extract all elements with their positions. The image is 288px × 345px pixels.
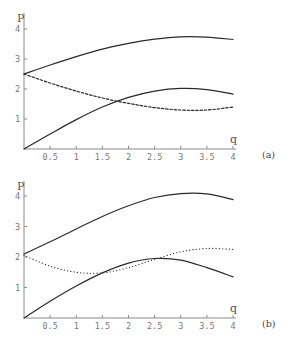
panel-a-x-tick-label: 2.5 <box>147 152 162 162</box>
panel-a-x-tick-label: 3 <box>178 152 183 162</box>
panel-a-x-tick-label: 1 <box>74 152 79 162</box>
panel-b-y-tick-label: 1 <box>15 283 20 293</box>
panel-b-x-tick-label: 3.5 <box>199 321 214 331</box>
panel-b-label: (b) <box>262 318 276 329</box>
panel-b-y-tick-label: 2 <box>15 252 20 262</box>
panel-b-y-tick-label: 3 <box>15 222 20 232</box>
panel-b-curve-dotted <box>24 248 233 273</box>
panel-b: 0.511.522.533.541234 P q (b) <box>15 180 276 331</box>
panel-a-y-tick-label: 4 <box>15 24 20 34</box>
panel-a-curve-lower-solid <box>24 88 233 149</box>
panel-a-x-tick-label: 2 <box>126 152 131 162</box>
panel-b-axes: 0.511.522.533.541234 <box>15 181 236 331</box>
panel-b-x-tick-label: 0.5 <box>42 321 57 331</box>
figure: 0.511.522.533.541234 P q (a) 0.511.522.5… <box>0 0 288 345</box>
panel-b-y-axis-label: P <box>17 180 25 193</box>
panel-a-x-tick-label: 4 <box>230 152 235 162</box>
panel-a-curve-upper-solid <box>24 37 233 74</box>
panel-b-curves <box>24 193 233 318</box>
panel-a-x-axis-label: q <box>230 133 237 146</box>
panel-a-x-tick-label: 0.5 <box>42 152 57 162</box>
panel-a-curves <box>24 37 233 149</box>
panel-a-curve-dashed <box>24 74 233 110</box>
panel-a-y-axis-label: P <box>17 12 25 25</box>
panel-b-x-tick-label: 1 <box>74 321 79 331</box>
panel-a-y-tick-label: 2 <box>15 84 20 94</box>
panel-a-label: (a) <box>262 149 275 160</box>
panel-a: 0.511.522.533.541234 P q (a) <box>15 12 275 162</box>
panel-b-curve-lower-solid <box>24 258 233 318</box>
panel-b-x-tick-label: 2.5 <box>147 321 162 331</box>
panel-a-axes: 0.511.522.533.541234 <box>15 13 236 162</box>
panel-a-y-tick-label: 3 <box>15 54 20 64</box>
panel-b-x-tick-label: 3 <box>178 321 183 331</box>
panel-b-x-tick-label: 4 <box>230 321 235 331</box>
panel-a-x-tick-label: 3.5 <box>199 152 214 162</box>
panel-b-x-tick-label: 2 <box>126 321 131 331</box>
panel-a-x-tick-label: 1.5 <box>95 152 110 162</box>
chart-canvas: 0.511.522.533.541234 P q (a) 0.511.522.5… <box>0 0 288 345</box>
panel-b-curve-upper-solid <box>24 193 233 254</box>
panel-b-x-axis-label: q <box>230 302 237 315</box>
panel-a-y-tick-label: 1 <box>15 114 20 124</box>
panel-b-x-tick-label: 1.5 <box>95 321 110 331</box>
